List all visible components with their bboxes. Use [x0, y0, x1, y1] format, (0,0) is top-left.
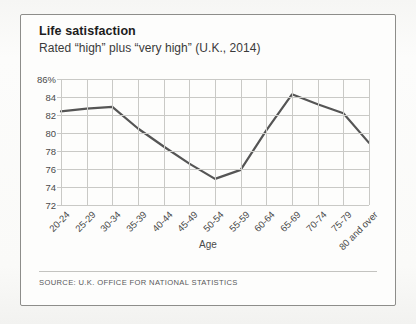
- y-tick-label: 74: [45, 182, 56, 193]
- x-gridline: [318, 79, 319, 205]
- x-gridline: [164, 79, 165, 205]
- y-tick-label: 72: [45, 200, 56, 211]
- x-tick-label: 20-24: [47, 209, 72, 234]
- x-gridline: [87, 79, 88, 205]
- y-tick-label: 82: [45, 110, 56, 121]
- x-gridline: [266, 79, 267, 205]
- chart-title: Life satisfaction: [39, 24, 136, 38]
- x-gridline: [369, 79, 370, 205]
- plot-wrapper: 86%8482807876747220-2425-2930-3435-3940-…: [61, 79, 369, 205]
- x-gridline: [343, 79, 344, 205]
- x-gridline: [292, 79, 293, 205]
- x-axis-title: Age: [21, 239, 395, 250]
- x-tick-label: 35-39: [124, 209, 149, 234]
- x-gridline: [215, 79, 216, 205]
- y-tick-label: 86%: [37, 74, 56, 85]
- x-gridline: [61, 79, 62, 205]
- screenshot-root: Life satisfaction Rated “high” plus “ver…: [0, 0, 416, 324]
- x-tick-label: 40-44: [149, 209, 174, 234]
- x-tick-label: 70-74: [303, 209, 328, 234]
- x-tick-label: 25-29: [72, 209, 97, 234]
- chart-card: Life satisfaction Rated “high” plus “ver…: [20, 14, 396, 306]
- y-gridline: [61, 205, 369, 206]
- x-gridline: [138, 79, 139, 205]
- x-tick-label: 30-34: [98, 209, 123, 234]
- x-tick-label: 65-69: [278, 209, 303, 234]
- source-note: SOURCE: U.K. OFFICE FOR NATIONAL STATIST…: [39, 278, 238, 287]
- source-divider: [39, 271, 377, 272]
- x-tick-label: 50-54: [201, 209, 226, 234]
- y-tick-label: 80: [45, 128, 56, 139]
- y-tick-label: 76: [45, 164, 56, 175]
- x-tick-label: 60-64: [252, 209, 277, 234]
- chart-card-inner: Life satisfaction Rated “high” plus “ver…: [21, 15, 395, 305]
- y-tick-label: 84: [45, 92, 56, 103]
- y-tick-label: 78: [45, 146, 56, 157]
- x-tick-label: 45-49: [175, 209, 200, 234]
- y-tick-mark: [57, 205, 61, 206]
- x-tick-label: 55-59: [226, 209, 251, 234]
- x-gridline: [112, 79, 113, 205]
- x-gridline: [241, 79, 242, 205]
- chart-subtitle: Rated “high” plus “very high” (U.K., 201…: [39, 41, 261, 55]
- x-gridline: [189, 79, 190, 205]
